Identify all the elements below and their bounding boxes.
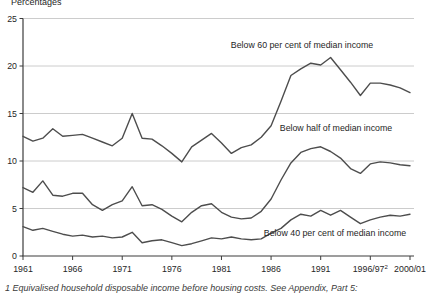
x-tick-label: 1966	[63, 264, 83, 274]
x-tick-label: 1986	[261, 264, 281, 274]
series-line-1	[23, 147, 410, 222]
x-tick-label: 1961	[13, 264, 33, 274]
y-tick-label: 20	[7, 61, 17, 71]
chart-page: Percentages 0510152025196119661971197619…	[0, 0, 426, 293]
series-label-0: Below 60 per cent of median income	[231, 40, 373, 50]
x-tick-label: 2000/01	[394, 264, 426, 274]
x-tick-label: 1991	[311, 264, 331, 274]
x-tick-label: 1981	[212, 264, 232, 274]
footnote: 1 Equivalised household disposable incom…	[5, 283, 426, 293]
series-line-0	[23, 58, 410, 162]
y-tick-label: 5	[12, 204, 17, 214]
x-tick-label: 1996/972	[353, 264, 389, 274]
y-tick-label: 10	[7, 156, 17, 166]
y-axis-title: Percentages	[11, 0, 62, 7]
income-poverty-line-chart: 0510152025196119661971197619811986199119…	[0, 0, 426, 293]
series-label-1: Below half of median income	[280, 123, 393, 133]
x-tick-label: 1976	[162, 264, 182, 274]
y-tick-label: 25	[7, 14, 17, 24]
y-tick-label: 15	[7, 109, 17, 119]
series-label-2: Below 40 per cent of median income	[264, 228, 406, 238]
x-tick-label: 1971	[112, 264, 132, 274]
y-tick-label: 0	[12, 251, 17, 261]
